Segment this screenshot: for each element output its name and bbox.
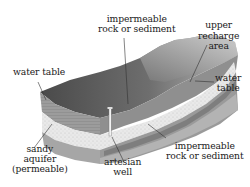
label-line: water table (13, 67, 65, 77)
label-water-table-left: water table (13, 67, 65, 77)
label-upper-recharge-area: upper recharge area (198, 20, 239, 52)
label-line: rock or sediment (166, 151, 244, 161)
label-impermeable-top: impermeable rock or sediment (98, 14, 176, 34)
label-line: well (104, 167, 141, 177)
label-water-table-right: water table (215, 73, 241, 93)
label-impermeable-bottom: impermeable rock or sediment (166, 141, 244, 161)
label-line: rock or sediment (98, 24, 176, 34)
label-artesian-well: artesian well (104, 157, 141, 177)
label-line: (permeable) (12, 164, 68, 174)
label-line: table (215, 83, 241, 93)
artesian-well-pipe (109, 108, 111, 136)
label-sandy-aquifer: sandy aquifer (permeable) (12, 144, 68, 174)
artesian-aquifer-diagram: impermeable rock or sediment upper recha… (0, 0, 250, 187)
label-line: area (198, 41, 239, 52)
label-line: upper (198, 20, 239, 31)
